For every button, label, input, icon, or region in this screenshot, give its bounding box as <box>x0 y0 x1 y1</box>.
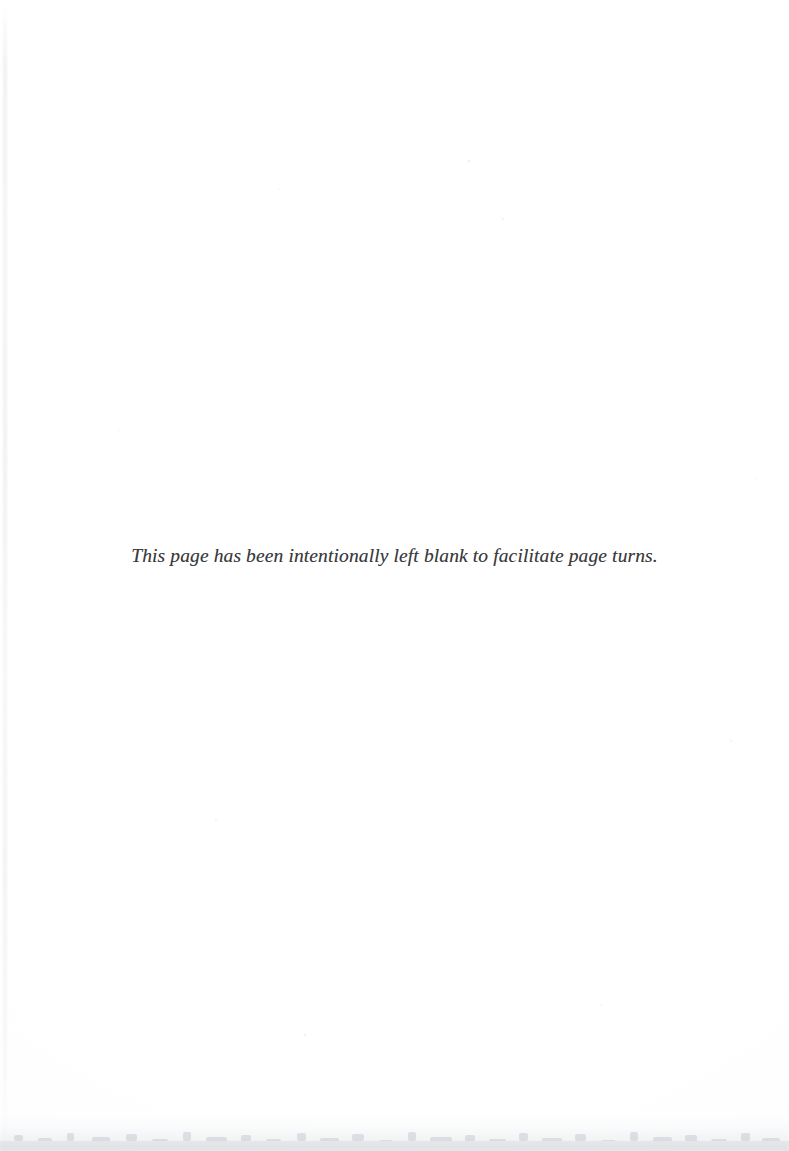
scan-streak-left-artifact <box>3 0 7 1151</box>
blank-page-notice: This page has been intentionally left bl… <box>0 543 789 569</box>
scan-bottom-speckle-artifact <box>0 1111 789 1151</box>
scan-bottom-edge-artifact <box>0 1105 789 1151</box>
paper-tone-overlay <box>0 0 789 1151</box>
scanned-page: This page has been intentionally left bl… <box>0 0 789 1151</box>
blank-page-notice-text: This page has been intentionally left bl… <box>131 543 658 569</box>
scan-speck-artifacts <box>0 0 789 1151</box>
